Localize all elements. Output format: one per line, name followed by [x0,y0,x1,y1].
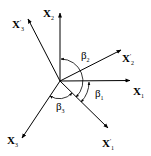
beta1-sub: 1 [101,95,104,101]
x3-label-main: X [7,134,15,146]
beta3-sub: 3 [62,108,65,114]
x1-prime-label: X'1 [102,138,114,149]
x1p-label-sub: 1 [111,145,114,151]
x3p-label-main: X [12,18,20,30]
beta2-main: β [81,49,87,61]
x1-label: X1 [133,86,144,97]
x2-label-main: X [43,7,51,19]
beta3-arc [50,93,72,99]
x1-label-main: X [133,85,141,97]
beta2-sub: 2 [87,57,90,63]
x3-label: X3 [7,135,18,146]
x3-axis [22,81,60,138]
x2p-label-main: X [122,52,130,64]
x3-prime-axis [28,19,60,81]
x3-label-sub: 3 [15,142,18,148]
beta2-arc [61,59,83,97]
x2p-label-sub: 2 [131,60,134,66]
beta1-label: β1 [95,88,104,99]
x2-label-sub: 2 [51,15,54,21]
x1p-label-prime: ' [110,138,111,144]
x1p-label-main: X [102,137,110,149]
x3-prime-label: X'3 [12,19,24,30]
beta2-label: β2 [81,50,90,61]
beta3-label: β3 [56,101,65,112]
x2-label: X2 [43,8,54,19]
x2-prime-axis [60,50,121,81]
x3p-label-sub: 3 [21,26,24,32]
x1-label-sub: 1 [141,93,144,99]
x2-prime-label: X'2 [122,53,134,64]
x2p-label-prime: ' [130,53,131,59]
x3p-label-prime: ' [20,19,21,25]
beta3-main: β [56,100,62,112]
x1-axis [60,81,130,82]
beta1-main: β [95,87,101,99]
